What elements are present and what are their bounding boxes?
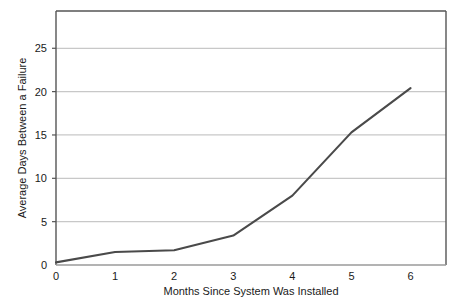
y-axis-title: Average Days Between a Failure <box>16 58 28 219</box>
plot-area <box>56 11 446 265</box>
x-tick-label: 3 <box>230 270 236 282</box>
y-tick-label: 0 <box>41 259 47 271</box>
y-tick-label: 15 <box>35 129 47 141</box>
chart-container: 0123456 2520151050 Months Since System W… <box>0 0 464 307</box>
x-tick-label: 6 <box>407 270 413 282</box>
y-tick-label: 5 <box>41 216 47 228</box>
x-tick-label: 2 <box>171 270 177 282</box>
y-tick-label: 20 <box>35 86 47 98</box>
x-tick-label: 1 <box>112 270 118 282</box>
x-axis-title: Months Since System Was Installed <box>163 285 338 297</box>
y-tick-label: 25 <box>35 42 47 54</box>
x-tick-label: 5 <box>348 270 354 282</box>
x-tick-label: 0 <box>53 270 59 282</box>
x-tick-label: 4 <box>289 270 295 282</box>
y-tick-label: 10 <box>35 172 47 184</box>
line-chart: 0123456 2520151050 Months Since System W… <box>0 0 464 307</box>
